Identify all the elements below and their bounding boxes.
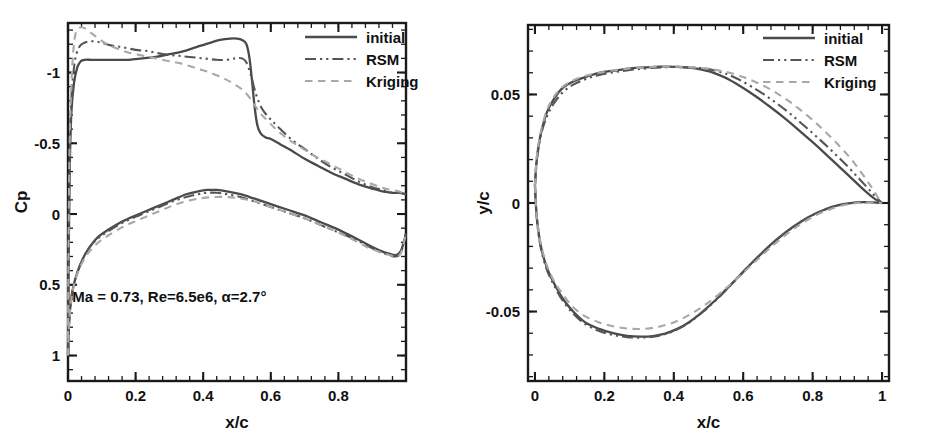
x-tick-label: 1 [878, 387, 886, 404]
y-tick-label: 1 [52, 347, 60, 364]
x-tick-label: 0.4 [663, 387, 685, 404]
y-tick-label: 0.05 [491, 86, 520, 103]
x-tick-label: 0.8 [328, 387, 349, 404]
x-tick-label: 0.2 [125, 387, 146, 404]
legend-label-rsm: RSM [366, 51, 399, 68]
legend-label-initial: initial [824, 30, 863, 47]
y-axis-title: Cp [12, 191, 31, 214]
data-curves [535, 67, 882, 338]
x-axis-title: x/c [697, 413, 721, 432]
y-tick-label: -1 [47, 64, 60, 81]
legend-label-kriging: Kriging [366, 73, 419, 90]
plot-annotation: Ma = 0.73, Re=6.5e6, α=2.7° [72, 288, 266, 305]
figure-root: 00.20.40.60.8-1-0.500.51x/cCpMa = 0.73, … [0, 0, 950, 439]
x-tick-label: 0.6 [260, 387, 281, 404]
y-axis-title: y/c [475, 191, 493, 215]
y-tick-label: 0.5 [39, 276, 60, 293]
legend-label-initial: initial [366, 29, 405, 46]
legend-label-rsm: RSM [824, 52, 857, 69]
y-tick-label: -0.05 [486, 303, 520, 320]
x-tick-label: 0.8 [802, 387, 823, 404]
y-tick-label: -0.5 [34, 135, 60, 152]
curve-rsm-lower [68, 193, 406, 356]
y-tick-label: 0 [512, 195, 520, 212]
curve-kriging-lower [68, 197, 406, 356]
data-curves [68, 27, 406, 355]
x-tick-label: 0.4 [193, 387, 215, 404]
legend-label-kriging: Kriging [824, 74, 877, 91]
x-tick-label: 0.2 [594, 387, 615, 404]
x-axis-ticks: 00.20.40.60.8 [64, 23, 406, 404]
x-tick-label: 0 [64, 387, 72, 404]
plot-frame [68, 23, 406, 381]
legend: initialRSMKriging [763, 30, 877, 91]
cp-chart-svg: 00.20.40.60.8-1-0.500.51x/cCpMa = 0.73, … [0, 0, 475, 439]
x-axis-title: x/c [225, 413, 249, 432]
airfoil-geometry-panel: 00.20.40.60.810.050-0.05x/cy/cinitialRSM… [475, 0, 950, 439]
x-tick-label: 0 [531, 387, 539, 404]
curve-initial-lower [68, 190, 406, 356]
x-tick-label: 0.6 [733, 387, 754, 404]
pressure-coefficient-panel: 00.20.40.60.8-1-0.500.51x/cCpMa = 0.73, … [0, 0, 475, 439]
geometry-chart-svg: 00.20.40.60.810.050-0.05x/cy/cinitialRSM… [475, 0, 950, 439]
y-tick-label: 0 [52, 206, 60, 223]
